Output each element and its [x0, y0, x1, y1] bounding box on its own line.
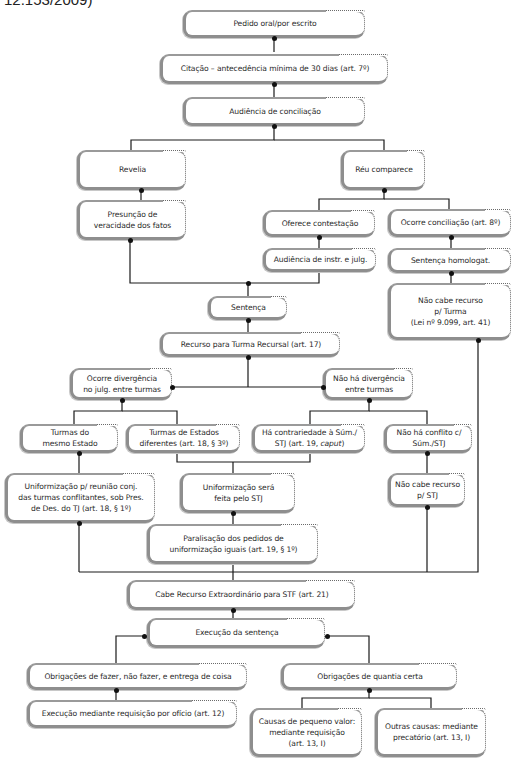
connector-dot: [321, 385, 326, 390]
node-label: Causas de pequeno valor: mediante requis…: [259, 716, 355, 749]
node-label: Uniformização será feita pelo STJ: [203, 482, 274, 504]
connector-dot: [367, 398, 372, 403]
node-label: Réu comparece: [355, 164, 413, 175]
connector-dot: [120, 398, 125, 403]
node-citacao: Citação – antecedência mínima de 30 dias…: [160, 54, 388, 84]
connector-dot: [272, 36, 277, 41]
node-label: Audiência de instr. e julg.: [274, 254, 367, 265]
node-obrig-quantia: Obrigações de quantia certa: [281, 663, 457, 690]
node-execucao: Execução da sentença: [147, 618, 325, 648]
node-label: Outras causas: mediante precatório (art.…: [385, 721, 478, 743]
node-nao-ha-conflito: Não há conflito c/ Súm./STJ: [384, 424, 472, 453]
node-recurso-turma: Recurso para Turma Recursal (art. 17): [160, 332, 340, 357]
connector-dot: [77, 451, 82, 456]
connector-dot: [170, 385, 175, 390]
connector-dot: [139, 188, 144, 193]
node-reu-comparece: Réu comparece: [341, 150, 425, 190]
node-label: Não cabe recurso p/ STJ: [395, 479, 460, 501]
connector-dot: [272, 82, 277, 87]
node-label: Execução mediante requisição por ofício …: [42, 708, 225, 719]
node-label: Ocorre conciliação (art. 8º): [401, 217, 501, 228]
connector-dot: [367, 688, 372, 693]
node-label: Pedido oral/por escrito: [233, 18, 316, 29]
node-outras-causas: Outras causas: mediante precatório (art.…: [375, 708, 486, 757]
connector-dot: [246, 355, 251, 360]
node-label: Ocorre divergência no julg. entre turmas: [83, 373, 161, 395]
connector-dot: [317, 235, 322, 240]
node-label: Paralisação dos pedidos de uniformização…: [170, 533, 298, 555]
node-pedido: Pedido oral/por escrito: [183, 10, 365, 38]
node-cabe-re: Cabe Recurso Extraordinário para STF (ar…: [127, 580, 355, 610]
node-pequeno-valor: Causas de pequeno valor: mediante requis…: [250, 708, 362, 757]
node-uniformizacao-stj: Uniformização será feita pelo STJ: [180, 473, 295, 513]
node-label: Citação – antecedência mínima de 30 dias…: [181, 63, 370, 74]
node-nao-ha-divergencia: Não há divergência entre turmas: [323, 368, 413, 400]
node-label: Recurso para Turma Recursal (art. 17): [181, 339, 321, 350]
connector-dot: [449, 235, 454, 240]
node-audiencia-conciliacao: Audiência de conciliação: [183, 97, 365, 126]
node-nao-cabe-turma: Não cabe recurso p/ Turma (Lei nº 9.099,…: [388, 283, 511, 340]
node-label: Revelia: [119, 164, 146, 175]
node-nao-cabe-stj: Não cabe recurso p/ STJ: [388, 473, 465, 507]
node-label: Não cabe recurso p/ Turma (Lei nº 9.099,…: [411, 295, 491, 328]
node-label: Obrigações de fazer, não fazer, e entreg…: [44, 671, 231, 682]
connector-dot: [449, 271, 454, 276]
node-label: Oferece contestação: [282, 218, 359, 229]
node-label: Uniformização p/ reunião conj. das turma…: [18, 481, 143, 514]
connector-dot: [231, 608, 236, 613]
connector-dot: [231, 511, 236, 516]
node-sentenca: Sentença: [208, 296, 287, 320]
node-label: Não há conflito c/ Súm./STJ: [397, 427, 462, 449]
connector-dot: [425, 451, 430, 456]
connector-dot: [246, 281, 251, 286]
node-turmas-estados-diferentes: Turmas de Estados diferentes (art. 18, §…: [126, 424, 240, 453]
connector-dot: [382, 188, 387, 193]
node-label: Obrigações de quantia certa: [317, 671, 422, 682]
node-label-italic: caput: [320, 439, 341, 448]
node-paralisacao: Paralisação dos pedidos de uniformização…: [147, 524, 318, 564]
node-label: Não há divergência entre turmas: [333, 373, 405, 395]
node-label: Audiência de conciliação: [229, 106, 321, 117]
connector-dot: [77, 521, 82, 526]
connector-dot: [128, 238, 133, 243]
node-uniformizacao-reuniao: Uniformização p/ reunião conj. das turma…: [5, 473, 155, 523]
connector-dot: [425, 505, 430, 510]
node-label: Há contrariedade à Súm./ STJ (art. 19, c…: [262, 427, 357, 449]
node-ha-contrariedade: Há contrariedade à Súm./ STJ (art. 19, c…: [252, 424, 365, 453]
connector-dot: [476, 338, 481, 343]
node-sentenca-homologat: Sentença homologat.: [388, 248, 511, 273]
node-label: Turmas de Estados diferentes (art. 18, §…: [140, 427, 229, 449]
connector-dot: [142, 634, 147, 639]
node-audiencia-instr: Audiência de instr. e julg.: [263, 248, 376, 272]
node-ocorre-conciliacao: Ocorre conciliação (art. 8º): [388, 209, 511, 237]
connector-dot: [325, 634, 330, 639]
node-label: Sentença homologat.: [411, 255, 490, 266]
node-label: Execução da sentença: [195, 627, 278, 638]
node-turmas-mesmo-estado: Turmas do mesmo Estado: [20, 424, 118, 453]
connector-dot: [272, 124, 277, 129]
node-label-part: ): [341, 439, 344, 448]
node-oferece-contestacao: Oferece contestação: [263, 210, 375, 237]
node-label: Cabe Recurso Extraordinário para STF (ar…: [155, 589, 328, 600]
connector-dot: [114, 688, 119, 693]
node-label: Presunção de veracidade dos fatos: [94, 209, 171, 231]
node-label: Turmas do mesmo Estado: [42, 427, 97, 449]
node-label: Sentença: [231, 302, 266, 313]
node-revelia: Revelia: [77, 150, 186, 190]
node-presuncao: Presunção de veracidade dos fatos: [77, 200, 186, 240]
node-ocorre-divergencia: Ocorre divergência no julg. entre turmas: [70, 368, 172, 400]
connector-dot: [246, 318, 251, 323]
node-obrig-fazer: Obrigações de fazer, não fazer, e entreg…: [27, 663, 247, 690]
node-execucao-oficio: Execução mediante requisição por ofício …: [27, 700, 237, 728]
